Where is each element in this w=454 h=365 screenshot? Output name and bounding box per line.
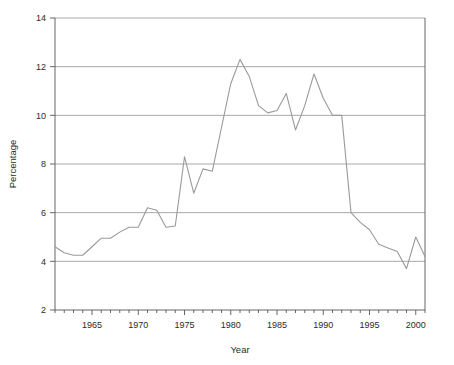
x-tick-label-1965: 1965 [82, 320, 102, 330]
y-tick-label-8: 8 [41, 159, 46, 169]
line-chart: 19651970197519801985199019952000 2468101… [0, 0, 454, 365]
y-tick-label-10: 10 [36, 111, 46, 121]
x-tick-label-1990: 1990 [313, 320, 333, 330]
y-tick-label-12: 12 [36, 62, 46, 72]
x-tick-label-1975: 1975 [174, 320, 194, 330]
x-axis-title: Year [230, 344, 249, 355]
x-tick-label-1995: 1995 [359, 320, 379, 330]
y-axis-title: Percentage [7, 140, 18, 189]
y-tick-label-2: 2 [41, 305, 46, 315]
y-tick-label-4: 4 [41, 257, 46, 267]
y-tick-label-14: 14 [36, 13, 46, 23]
x-tick-label-1980: 1980 [221, 320, 241, 330]
x-tick-label-1985: 1985 [267, 320, 287, 330]
x-tick-label-2000: 2000 [406, 320, 426, 330]
y-tick-label-6: 6 [41, 208, 46, 218]
chart-container: 19651970197519801985199019952000 2468101… [0, 0, 454, 365]
x-tick-label-1970: 1970 [128, 320, 148, 330]
